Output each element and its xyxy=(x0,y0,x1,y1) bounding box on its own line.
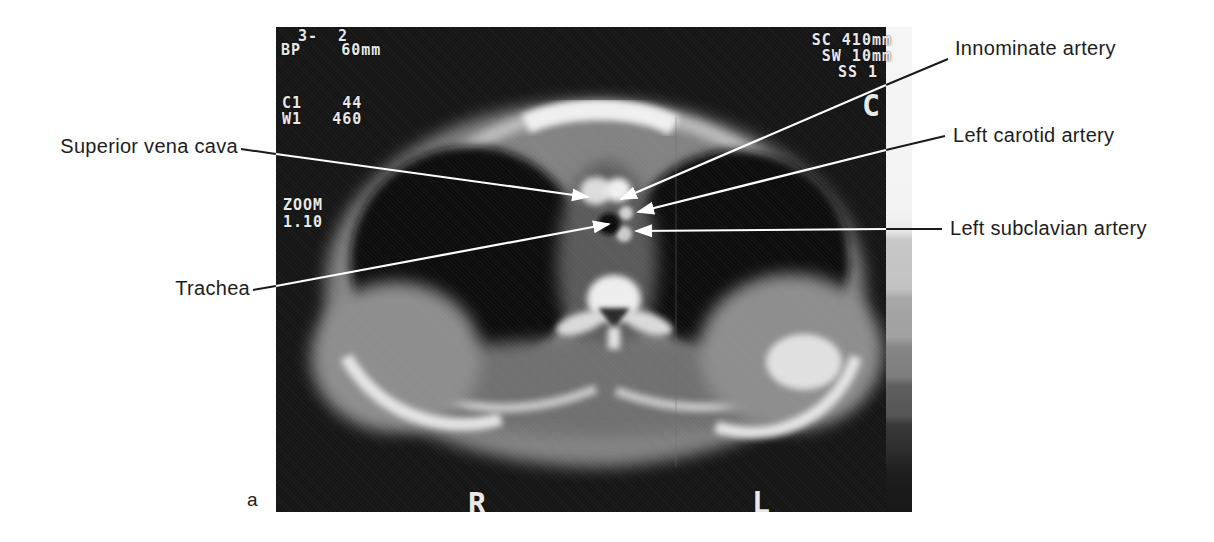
overlay-orientation-letter: C xyxy=(862,91,880,121)
label-left-subclavian-artery: Left subclavian artery xyxy=(950,217,1147,240)
label-trachea: Trachea xyxy=(150,277,250,300)
overlay-center-value: C1 44 xyxy=(282,95,362,111)
leader-superior-vena-cava-outer xyxy=(241,149,276,154)
trachea-air-column xyxy=(598,213,620,235)
ct-anatomy-rendering xyxy=(276,27,912,512)
overlay-slice-number: SS 1 xyxy=(838,64,878,80)
grayscale-calibration-bar xyxy=(886,27,912,512)
ct-scan-film: 3- 2 BP 60mm C1 44 W1 460 ZOOM 1.10 SC 4… xyxy=(276,27,912,512)
overlay-scan-field: SC 410mm xyxy=(812,32,892,48)
overlay-window-value: W1 460 xyxy=(282,111,362,127)
left-scapula-blob xyxy=(766,334,842,390)
overlay-zoom-value: 1.10 xyxy=(283,214,323,230)
overlay-zoom-label: ZOOM xyxy=(283,197,323,213)
spinous-process xyxy=(608,327,620,349)
innominate-artery-vessel xyxy=(605,178,631,202)
figure-panel: 3- 2 BP 60mm C1 44 W1 460 ZOOM 1.10 SC 4… xyxy=(0,0,1214,542)
leader-trachea-outer xyxy=(253,286,276,290)
overlay-bp-value: BP 60mm xyxy=(281,42,381,58)
patient-left-marker: L xyxy=(752,488,770,512)
panel-letter: a xyxy=(247,489,258,511)
left-carotid-artery-vessel xyxy=(619,206,633,220)
label-superior-vena-cava: Superior vena cava xyxy=(40,135,238,158)
label-left-carotid-artery: Left carotid artery xyxy=(953,124,1114,147)
patient-right-marker: R xyxy=(468,489,486,512)
label-innominate-artery: Innominate artery xyxy=(955,37,1116,60)
overlay-slice-width: SW 10mm xyxy=(822,48,892,64)
